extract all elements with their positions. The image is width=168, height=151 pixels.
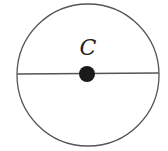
center-label: C	[80, 35, 97, 60]
center-point	[79, 66, 95, 82]
circle-diagram: C	[0, 0, 168, 151]
